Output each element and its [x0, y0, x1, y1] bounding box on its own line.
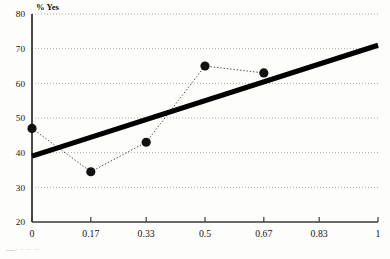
data-point: [86, 167, 95, 176]
chart-background: [0, 0, 390, 259]
y-tick-label: 50: [16, 113, 26, 123]
y-tick-label: 20: [16, 217, 26, 227]
y-tick-label: 60: [16, 79, 26, 89]
chart-figure: 20304050607080 00.170.330.50.670.831 % Y…: [0, 0, 390, 259]
y-tick-label: 30: [16, 183, 26, 193]
y-tick-label: 80: [16, 9, 26, 19]
y-axis-title: % Yes: [36, 2, 59, 12]
x-tick-label: 0.83: [311, 228, 328, 239]
data-point: [200, 61, 209, 70]
chart-canvas: 20304050607080 00.170.330.50.670.831 % Y…: [0, 0, 390, 259]
x-tick-label: 0.33: [138, 228, 155, 239]
data-point: [27, 124, 36, 133]
x-tick-label: 1: [376, 228, 381, 239]
y-tick-label: 40: [16, 148, 26, 158]
y-tick-label: 70: [16, 44, 26, 54]
data-point: [259, 68, 268, 77]
x-tick-label: 0.5: [199, 228, 211, 239]
x-tick-label: 0: [30, 228, 35, 239]
x-tick-label: 0.67: [255, 228, 272, 239]
x-tick-label: 0.17: [82, 228, 99, 239]
data-point: [142, 138, 151, 147]
